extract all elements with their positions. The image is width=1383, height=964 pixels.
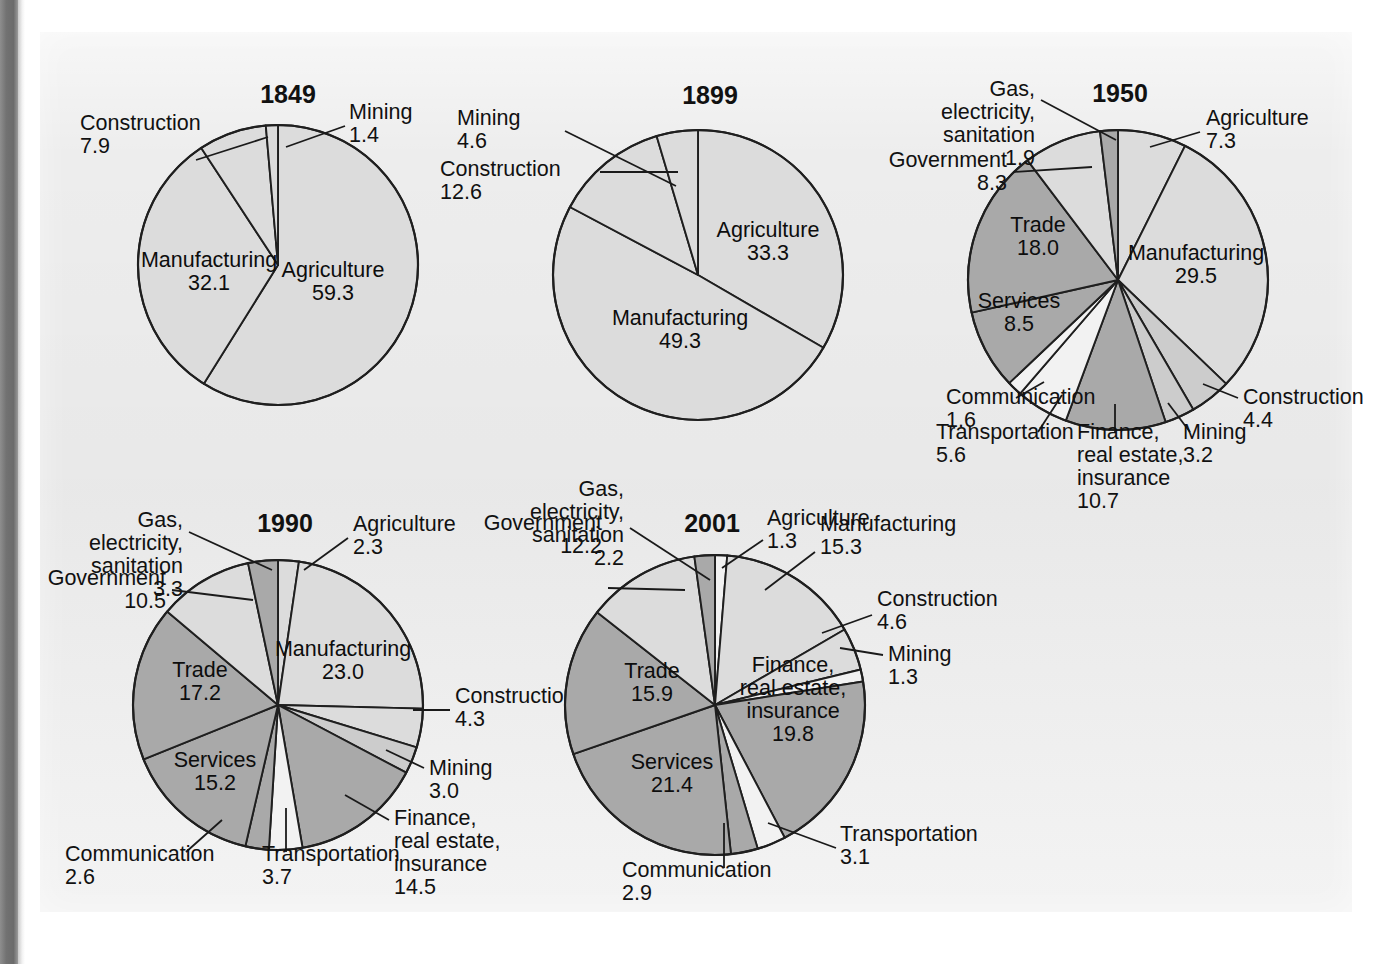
leader-line-agriculture (304, 538, 348, 570)
slice-label-trade: Trade18.0 (1010, 213, 1065, 260)
slice-label-agriculture: Agriculture7.3 (1206, 106, 1309, 153)
pie-chart-1990: 1990Manufacturing23.0Trade17.2Services15… (48, 508, 576, 899)
slice-label-transportation: Transportation3.7 (262, 842, 400, 889)
slice-label-construction: Construction4.6 (877, 587, 998, 634)
slice-label-mining: Mining1.3 (888, 642, 951, 689)
slice-label-government: Government12.2 (484, 511, 602, 558)
slice-label-transportation: Transportation3.1 (840, 822, 978, 869)
pie-chart-figure: 1849Agriculture59.3Manufacturing32.1Cons… (0, 0, 1383, 964)
slice-label-manufacturing: Manufacturing15.3 (820, 512, 956, 559)
pie-chart-1899: 1899Agriculture33.3Manufacturing49.3Mini… (440, 81, 843, 420)
slice-label-construction: Construction4.3 (455, 684, 576, 731)
slice-label-mining: Mining4.6 (457, 106, 520, 153)
pie-title-1899: 1899 (682, 81, 738, 109)
slice-label-finance-real-estate-insurance: Finance,real estate,insurance10.7 (1077, 420, 1183, 513)
slice-label-government: Government10.5 (48, 566, 166, 613)
slice-label-construction: Construction7.9 (80, 111, 201, 158)
pie-title-2001: 2001 (684, 509, 740, 537)
slice-label-trade: Trade17.2 (172, 658, 227, 705)
slice-label-communication: Communication2.9 (622, 858, 771, 905)
slice-label-mining: Mining3.0 (429, 756, 492, 803)
slice-label-mining: Mining3.2 (1183, 420, 1246, 467)
slice-label-mining: Mining1.4 (349, 100, 412, 147)
slice-label-construction: Construction12.6 (440, 157, 561, 204)
slice-label-trade: Trade15.9 (624, 659, 679, 706)
slice-label-communication: Communication2.6 (65, 842, 214, 889)
pie-title-1950: 1950 (1092, 79, 1148, 107)
pie-slice-manufacturing[interactable] (278, 562, 423, 709)
pie-title-1849: 1849 (260, 80, 316, 108)
slice-label-agriculture: Agriculture2.3 (353, 512, 456, 559)
slice-label-construction: Construction4.4 (1243, 385, 1364, 432)
slice-label-finance-real-estate-insurance: Finance,real estate,insurance14.5 (394, 806, 500, 899)
leader-line-gas-electricity-sanitation (189, 532, 272, 570)
pie-chart-1849: 1849Agriculture59.3Manufacturing32.1Cons… (80, 80, 418, 405)
pie-title-1990: 1990 (257, 509, 313, 537)
pie-chart-1950: 1950Manufacturing29.5Trade18.0Services8.… (889, 77, 1364, 513)
slice-label-government: Government8.3 (889, 148, 1007, 195)
